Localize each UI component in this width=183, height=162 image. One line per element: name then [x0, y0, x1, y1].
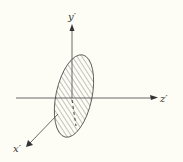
y-axis-label: y′	[67, 11, 77, 22]
hatched-ellipse	[48, 51, 101, 141]
z-axis-label: z′	[159, 93, 168, 104]
x-axis	[26, 114, 58, 147]
diagram-canvas: y′ z′ x′	[0, 0, 183, 162]
x-axis-label: x′	[13, 143, 22, 154]
